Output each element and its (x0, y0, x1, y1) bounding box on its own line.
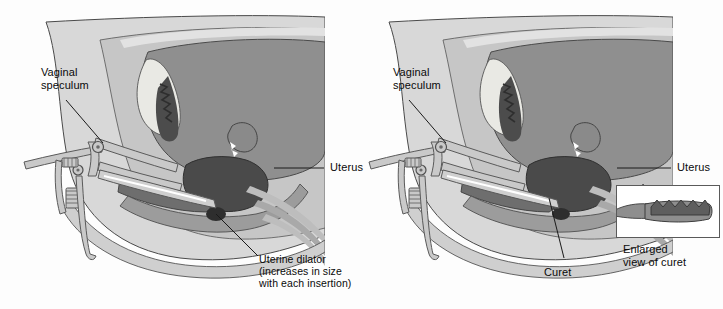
speculum-left-handle (398, 160, 409, 214)
medical-illustration-figure: Vaginal speculum Uterus Uterine dilator … (0, 0, 723, 309)
label-inset-caption: Enlarged view of curet (623, 243, 686, 268)
label-uterus: Uterus (330, 161, 363, 174)
label-vaginal-speculum: Vaginal speculum (41, 66, 89, 91)
label-uterus: Uterus (677, 161, 710, 174)
speculum-left-handle (55, 160, 66, 214)
label-uterine-dilator: Uterine dilator (increases in size with … (259, 253, 351, 289)
curet-enlarged-artwork (617, 186, 718, 236)
speculum-pivot-lower-hole (419, 168, 422, 171)
panel-curet: Vaginal speculum Uterus Curet Enlarged v… (361, 0, 723, 309)
label-curet: Curet (544, 266, 571, 279)
curet-enlarged-inset (616, 185, 720, 238)
label-vaginal-speculum: Vaginal speculum (393, 66, 441, 91)
panel-dilator: Vaginal speculum Uterus Uterine dilator … (0, 0, 362, 309)
speculum-pivot-upper-hole (439, 145, 443, 149)
speculum-pivot-lower-hole (76, 168, 79, 171)
speculum-pivot-upper-hole (96, 145, 100, 149)
tissue-nodule (552, 208, 570, 220)
